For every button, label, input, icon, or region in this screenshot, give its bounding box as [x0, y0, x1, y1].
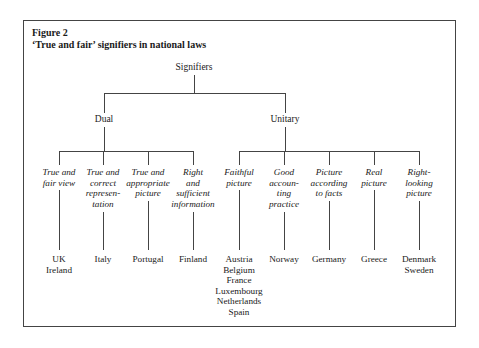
drop-3 — [148, 151, 149, 165]
figure-number: Figure 2 — [32, 27, 68, 39]
signifier-line: to facts — [311, 188, 348, 199]
signifier-line: picture — [405, 188, 433, 199]
countries-right-looking-picture: Denmark Sweden — [402, 254, 436, 275]
country: Portugal — [132, 254, 163, 265]
signifier-line: Right- — [405, 167, 433, 178]
signifier-good-accounting-practice: Good accoun- ting practice — [269, 167, 299, 209]
signifier-line: picture — [126, 188, 170, 199]
signifier-line: sufficient — [171, 188, 214, 199]
signifier-right-and-sufficient: Right and sufficient information — [171, 167, 214, 209]
level1-bar — [104, 93, 286, 94]
dual-children-bar — [59, 151, 194, 152]
drop-9 — [419, 151, 420, 165]
drop-2 — [103, 151, 104, 165]
country-drop-9 — [419, 201, 420, 250]
signifier-line: and — [171, 178, 214, 189]
country-drop-4 — [193, 212, 194, 250]
signifier-line: True and — [126, 167, 170, 178]
country: Luxembourg — [215, 286, 262, 297]
country-drop-7 — [329, 201, 330, 250]
branch-unitary: Unitary — [270, 114, 299, 125]
signifier-line: practice — [269, 199, 299, 210]
signifier-line: Faithful — [224, 167, 254, 178]
dual-connector-bottom — [104, 127, 105, 151]
country: Austria — [215, 254, 262, 265]
signifier-line: accoun- — [269, 178, 299, 189]
country: Belgium — [215, 265, 262, 276]
countries-good-accounting-practice: Norway — [269, 254, 299, 265]
countries-true-and-correct: Italy — [95, 254, 112, 265]
country: France — [215, 275, 262, 286]
country: Spain — [215, 307, 262, 318]
country: Ireland — [46, 265, 72, 276]
country-drop-6 — [284, 212, 285, 250]
signifier-line: picture — [361, 178, 387, 189]
signifier-right-looking-picture: Right- looking picture — [405, 167, 433, 199]
unitary-connector-bottom — [285, 127, 286, 151]
drop-1 — [59, 151, 60, 165]
signifier-line: correct — [86, 178, 121, 189]
countries-true-and-fair-view: UK Ireland — [46, 254, 72, 275]
signifier-line: according — [311, 178, 348, 189]
country: Greece — [361, 254, 387, 265]
signifier-real-picture: Real picture — [361, 167, 387, 188]
signifier-true-and-appropriate: True and appropriate picture — [126, 167, 170, 199]
country: Sweden — [402, 265, 436, 276]
country: UK — [46, 254, 72, 265]
signifier-line: True and — [86, 167, 121, 178]
country: Germany — [312, 254, 346, 265]
country-drop-3 — [148, 201, 149, 250]
unitary-connector-top — [285, 93, 286, 113]
country: Netherlands — [215, 296, 262, 307]
signifier-line: picture — [224, 178, 254, 189]
signifier-line: looking — [405, 178, 433, 189]
signifier-line: Real — [361, 167, 387, 178]
signifier-line: True and — [43, 167, 76, 178]
countries-right-and-sufficient: Finland — [179, 254, 207, 265]
root-node: Signifiers — [176, 62, 213, 73]
signifier-line: tation — [86, 199, 121, 210]
countries-faithful-picture: Austria Belgium France Luxembourg Nether… — [215, 254, 262, 318]
drop-8 — [374, 151, 375, 165]
country: Norway — [269, 254, 299, 265]
figure-title: ‘True and fair’ signifiers in national l… — [32, 39, 206, 51]
signifier-picture-according-to-facts: Picture according to facts — [311, 167, 348, 199]
drop-6 — [284, 151, 285, 165]
country-drop-8 — [374, 190, 375, 250]
drop-7 — [329, 151, 330, 165]
country: Finland — [179, 254, 207, 265]
countries-true-and-appropriate: Portugal — [132, 254, 163, 265]
signifier-faithful-picture: Faithful picture — [224, 167, 254, 188]
signifier-true-and-correct: True and correct represen- tation — [86, 167, 121, 209]
country: Italy — [95, 254, 112, 265]
signifier-line: appropriate — [126, 178, 170, 189]
signifier-line: represen- — [86, 188, 121, 199]
signifier-line: ting — [269, 188, 299, 199]
countries-picture-according-to-facts: Germany — [312, 254, 346, 265]
signifier-line: Picture — [311, 167, 348, 178]
signifier-line: information — [171, 199, 214, 210]
signifier-line: fair view — [43, 178, 76, 189]
country-drop-2 — [103, 212, 104, 250]
drop-5 — [239, 151, 240, 165]
country-drop-5 — [239, 190, 240, 250]
signifier-true-and-fair-view: True and fair view — [43, 167, 76, 188]
root-connector — [194, 75, 195, 93]
signifier-line: Good — [269, 167, 299, 178]
country-drop-1 — [59, 190, 60, 250]
signifier-line: Right — [171, 167, 214, 178]
drop-4 — [193, 151, 194, 165]
country: Denmark — [402, 254, 436, 265]
countries-real-picture: Greece — [361, 254, 387, 265]
dual-connector-top — [104, 93, 105, 113]
branch-dual: Dual — [95, 114, 113, 125]
